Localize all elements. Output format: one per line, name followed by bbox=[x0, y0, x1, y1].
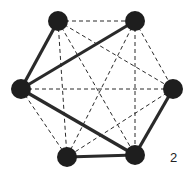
dashed-edge-left-bottom-left bbox=[21, 89, 67, 157]
node-bottom-right bbox=[125, 145, 145, 165]
node-top-left bbox=[48, 11, 68, 31]
solid-edge-left-bottom-right bbox=[21, 89, 135, 155]
node-bottom-left bbox=[57, 147, 77, 167]
dashed-edge-top-right-right bbox=[135, 21, 173, 89]
node-top-right bbox=[125, 11, 145, 31]
node-left bbox=[11, 79, 31, 99]
figure-label: 2 bbox=[170, 150, 177, 165]
node-right bbox=[163, 79, 183, 99]
graph-diagram: 2 bbox=[0, 0, 196, 178]
solid-edge-bottom-left-bottom-right bbox=[67, 155, 135, 157]
complete-graph-k6 bbox=[0, 0, 196, 178]
dashed-edge-top-left-bottom-right bbox=[58, 21, 135, 155]
solid-edge-bottom-right-right bbox=[135, 89, 173, 155]
